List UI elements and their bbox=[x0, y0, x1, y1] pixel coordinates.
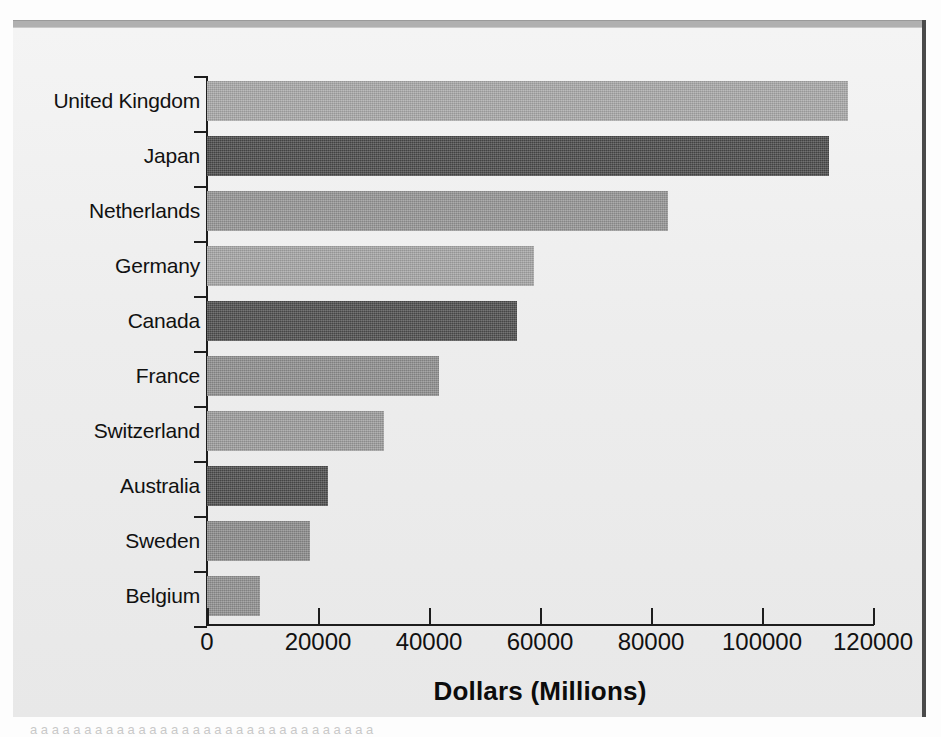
x-axis-tick bbox=[318, 608, 320, 625]
bar bbox=[207, 356, 439, 396]
bar bbox=[207, 191, 668, 231]
page-bleed-text: a a a a a a a a a a a a a a a a a a a a … bbox=[30, 722, 920, 736]
bar bbox=[207, 411, 384, 451]
category-label: Germany bbox=[10, 255, 200, 279]
y-axis-tick bbox=[194, 571, 207, 573]
category-label: Australia bbox=[10, 475, 200, 499]
category-label: France bbox=[10, 365, 200, 389]
y-axis-tick bbox=[194, 131, 207, 133]
category-label: Switzerland bbox=[10, 420, 200, 444]
bar bbox=[207, 466, 328, 506]
category-label-text: France bbox=[20, 365, 200, 386]
bar bbox=[207, 246, 534, 286]
x-axis-tick bbox=[873, 608, 875, 625]
y-axis-tick bbox=[194, 461, 207, 463]
x-axis-tick-label: 20000 bbox=[285, 630, 352, 654]
y-axis-tick bbox=[194, 351, 207, 353]
y-axis-tick bbox=[194, 516, 207, 518]
x-axis-tick-label: 0 bbox=[200, 630, 213, 654]
x-axis-tick bbox=[429, 608, 431, 625]
x-axis-tick bbox=[207, 608, 209, 625]
category-label: Belgium bbox=[10, 585, 200, 609]
y-axis-tick bbox=[194, 241, 207, 243]
x-axis-tick bbox=[762, 608, 764, 625]
category-label-text: Australia bbox=[20, 475, 200, 496]
category-label-text: Belgium bbox=[20, 585, 200, 606]
y-axis-tick bbox=[194, 76, 207, 78]
category-label-text: Netherlands bbox=[20, 200, 200, 221]
bar bbox=[207, 81, 848, 121]
bar bbox=[207, 521, 310, 561]
x-axis-tick-label: 60000 bbox=[507, 630, 574, 654]
category-label: Sweden bbox=[10, 530, 200, 554]
x-axis-tick-label: 120000 bbox=[833, 630, 913, 654]
scanned-page: United KingdomJapanNetherlandsGermanyCan… bbox=[0, 0, 941, 737]
category-label: Japan bbox=[10, 145, 200, 169]
category-label-text: Sweden bbox=[20, 530, 200, 551]
category-label-text: Japan bbox=[20, 145, 200, 166]
bar bbox=[207, 576, 260, 616]
bar bbox=[207, 136, 829, 176]
y-axis-tick bbox=[194, 186, 207, 188]
bar bbox=[207, 301, 517, 341]
x-axis-tick-label: 100000 bbox=[722, 630, 802, 654]
category-label: United Kingdom bbox=[10, 90, 200, 114]
x-axis-tick-label: 80000 bbox=[618, 630, 685, 654]
x-axis-tick bbox=[651, 608, 653, 625]
category-label-text: Germany bbox=[20, 255, 200, 276]
category-label-text: Switzerland bbox=[20, 420, 200, 441]
category-label-text: Canada bbox=[20, 310, 200, 331]
bar-chart-plot: United KingdomJapanNetherlandsGermanyCan… bbox=[0, 0, 941, 737]
y-axis-tick bbox=[194, 296, 207, 298]
x-axis-tick bbox=[540, 608, 542, 625]
y-axis-tick bbox=[194, 406, 207, 408]
category-label: Netherlands bbox=[10, 200, 200, 224]
category-label: Canada bbox=[10, 310, 200, 334]
x-axis-title: Dollars (Millions) bbox=[206, 676, 874, 707]
category-label-text: United Kingdom bbox=[20, 90, 200, 111]
x-axis-tick-label: 40000 bbox=[396, 630, 463, 654]
